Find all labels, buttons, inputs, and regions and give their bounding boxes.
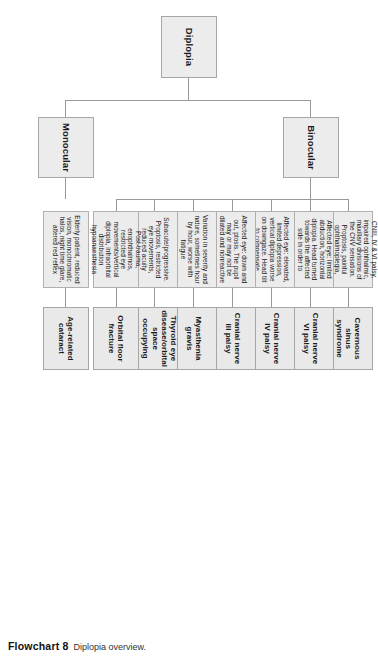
node-desc-text: Variation in severity and nature, someti…: [179, 215, 208, 284]
node-branch-monocular[interactable]: Monocular: [38, 117, 94, 178]
node-desc-text: Post-trauma, enophthalmos, restricted ey…: [90, 215, 141, 284]
connector-fan-stub-orbital: [116, 199, 117, 211]
node-dx-label: Cranial nerve VI palsy: [302, 311, 320, 366]
node-dx-label: Age-related cataract: [57, 311, 75, 366]
figure-caption-label: Flowchart 8: [8, 640, 69, 652]
connector-fan-stub-cn4: [271, 199, 272, 211]
connector-desc-to-dx-orbital: [116, 288, 117, 307]
node-dx-label: Cranial nerve III palsy: [224, 311, 242, 366]
connector-desc-to-dx-cn6: [310, 288, 311, 307]
connector-fan-stub-cavernous: [348, 199, 349, 211]
connector-fan-stub-cn6: [310, 199, 311, 211]
connector-to-monocular: [65, 100, 66, 117]
connector-root-stub: [188, 78, 189, 100]
node-branch-monocular-label: Monocular: [61, 123, 72, 172]
connector-binocular-to-fan: [310, 178, 311, 199]
node-branch-binocular-label: Binocular: [306, 125, 317, 170]
node-desc-orbital-floor-fracture[interactable]: Post-trauma, enophthalmos, restricted ey…: [93, 211, 139, 288]
connector-fan-stub-myasthenia: [193, 199, 194, 211]
connector-branch-spine: [66, 100, 311, 101]
node-dx-label: Cavernous sinus syndrome: [335, 311, 362, 366]
node-branch-binocular[interactable]: Binocular: [283, 117, 339, 178]
figure-caption-text: Diplopia overview.: [74, 642, 147, 652]
node-root-label: Diplopia: [184, 28, 195, 66]
connector-desc-to-dx-cn4: [271, 288, 272, 307]
node-dx-label: Myasthenia gravis: [185, 311, 203, 366]
node-desc-text: Subacute/progressive. Proptosis, restric…: [140, 215, 169, 284]
node-desc-text: Affected eye: down and out, ptosis. The …: [218, 215, 247, 284]
connector-desc-to-dx-myasthenia: [193, 288, 194, 307]
node-desc-text: Affected eye: elevated, limited depressi…: [254, 215, 290, 284]
connector-to-binocular: [310, 100, 311, 117]
node-desc-text: Elderly patient, reduced vision, monochr…: [51, 215, 80, 284]
node-dx-label: Thyroid eye disease/orbital space occupy…: [132, 310, 178, 367]
node-dx-label: Orbital floor fracture: [107, 311, 125, 366]
connector-desc-to-dx-thyroid: [154, 288, 155, 307]
node-dx-age-related-cataract[interactable]: Age-related cataract: [43, 307, 89, 370]
node-dx-orbital-floor-fracture[interactable]: Orbital floor fracture: [93, 307, 139, 370]
connector-desc-to-dx-cn3: [232, 288, 233, 307]
connector-fan-stub-thyroid: [154, 199, 155, 211]
node-desc-age-related-cataract[interactable]: Elderly patient, reduced vision, monochr…: [43, 211, 89, 288]
connector-desc-to-dx-cavernous: [348, 288, 349, 307]
connector-fan-stub-cn3: [232, 199, 233, 211]
connector-monocular-to-column: [65, 178, 66, 199]
figure-caption: Flowchart 8Diplopia overview.: [8, 640, 146, 652]
node-root-diplopia[interactable]: Diplopia: [161, 16, 217, 78]
connector-binocular-fan-spine: [117, 199, 349, 200]
node-desc-text: Affected eye: limited abduction, horizon…: [289, 215, 333, 284]
connector-desc-to-dx-cataract: [65, 288, 66, 307]
node-dx-label: Cranial nerve IV palsy: [263, 311, 281, 366]
